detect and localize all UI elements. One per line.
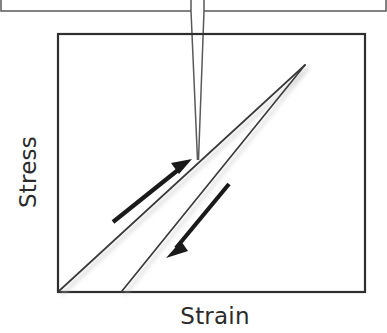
y-axis-label: Stress xyxy=(15,136,41,208)
x-axis-label: Strain xyxy=(180,303,249,329)
stress-strain-figure: Stress Strain xyxy=(0,0,387,333)
